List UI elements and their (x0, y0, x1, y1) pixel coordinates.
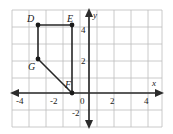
y-axis-label: y (92, 10, 97, 20)
x-axis-label: x (151, 78, 156, 88)
point-label-d: D (26, 13, 35, 24)
x-tick-label-neg4: -4 (16, 96, 24, 106)
y-tick-label-pos2: 2 (81, 56, 86, 66)
point-label-f: F (64, 79, 72, 90)
x-tick-label-neg2: -2 (50, 96, 58, 106)
point-label-g: G (28, 61, 35, 72)
y-tick-label-pos4: 4 (81, 25, 86, 35)
x-tick-label-pos2: 2 (110, 96, 115, 106)
x-tick-label-zero: 0 (80, 96, 85, 106)
point-g-marker (36, 57, 41, 62)
coordinate-plane-svg: x y -4 -2 0 2 4 4 2 -2 D E F G (0, 0, 173, 134)
point-f-marker (70, 91, 75, 96)
y-tick-label-neg2: -2 (72, 108, 80, 118)
point-label-e: E (66, 13, 73, 24)
point-d-marker (36, 23, 41, 28)
figure-background (0, 0, 173, 134)
coordinate-plane-figure: x y -4 -2 0 2 4 4 2 -2 D E F G (0, 0, 173, 134)
x-tick-label-pos4: 4 (144, 96, 149, 106)
